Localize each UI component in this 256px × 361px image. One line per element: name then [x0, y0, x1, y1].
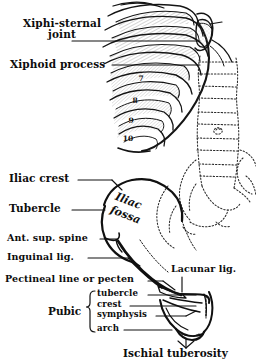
label-xiphoid-process: Xiphoid process: [10, 59, 105, 70]
label-pubic-tubercle: tubercle: [97, 289, 138, 298]
label-pubic-group: Pubic: [48, 305, 81, 317]
rib-number-7: 7: [136, 74, 146, 83]
label-tubercle: Tubercle: [9, 203, 61, 214]
label-xiphi-sternal-joint: Xiphi-sternal joint: [10, 18, 114, 40]
lumbar-spine-group: [197, 56, 239, 188]
label-inguinal-lig: Inguinal lig.: [7, 252, 74, 262]
label-xiphi-sternal-joint-line2: joint: [48, 28, 76, 40]
label-pubic-crest: crest: [97, 300, 122, 309]
rib-number-10: 10: [122, 134, 134, 143]
label-pubic-arch: arch: [97, 324, 119, 333]
label-iliac-crest: Iliac crest: [9, 173, 69, 184]
label-ischial-tuberosity: Ischial tuberosity: [123, 348, 228, 359]
rib-number-9: 9: [126, 116, 136, 125]
rib-number-8: 8: [130, 96, 140, 105]
label-lacunar-lig: Lacunar lig.: [171, 264, 236, 274]
pubic-brace: [86, 291, 95, 332]
label-pectineal-line-or-pecten: Pectineal line or pecten: [5, 274, 134, 284]
rib-cage-group: [103, 2, 232, 152]
label-ant-sup-spine: Ant. sup. spine: [7, 233, 88, 243]
label-pubic-symphysis: symphysis: [97, 310, 147, 319]
anatomical-figure: Xiphi-sternal joint Xiphoid process 7 8 …: [0, 0, 256, 361]
